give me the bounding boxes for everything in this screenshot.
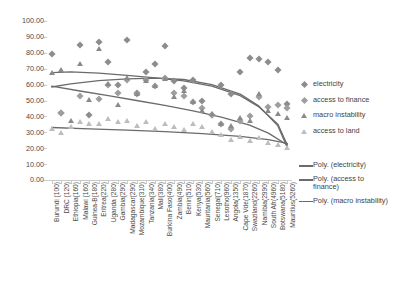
y-tick-label: 20.00 bbox=[2, 145, 44, 152]
data-point bbox=[256, 91, 262, 96]
data-point bbox=[247, 138, 253, 143]
x-tick-label: Cape Vde(1870) bbox=[243, 182, 250, 230]
legend-label: macro instability bbox=[313, 111, 365, 119]
data-point bbox=[86, 97, 92, 102]
data-point bbox=[68, 124, 74, 129]
x-tick-mark bbox=[155, 181, 156, 184]
data-point bbox=[190, 121, 196, 126]
x-tick-mark bbox=[202, 181, 203, 184]
x-tick-mark bbox=[184, 181, 185, 184]
data-point bbox=[162, 76, 168, 81]
x-tick-mark bbox=[137, 181, 138, 184]
x-tick-mark bbox=[221, 181, 222, 184]
x-tick-label: Madagascar(290) bbox=[130, 182, 137, 234]
x-tick-label: Uganda (280) bbox=[111, 182, 118, 222]
legend-label: Poly. (electricity) bbox=[313, 161, 366, 169]
data-point bbox=[152, 83, 158, 88]
data-point bbox=[105, 81, 111, 86]
y-axis-labels: 100.0090.0080.0070.0060.0050.0040.0030.0… bbox=[0, 0, 44, 200]
y-tick-label: 80.00 bbox=[2, 49, 44, 56]
plot-area bbox=[47, 21, 292, 180]
data-point bbox=[77, 61, 83, 66]
triangle-marker-icon bbox=[299, 111, 313, 120]
x-tick-mark bbox=[118, 181, 119, 184]
data-point bbox=[134, 123, 140, 128]
data-point bbox=[209, 111, 215, 116]
trendline bbox=[52, 72, 288, 145]
legend-item-electricity[interactable]: electricity bbox=[299, 80, 398, 89]
legend-label: Poly. (access to finance) bbox=[313, 175, 391, 192]
x-tick-mark bbox=[89, 181, 90, 184]
x-tick-mark bbox=[278, 181, 279, 184]
data-point bbox=[275, 111, 281, 116]
x-tick-mark bbox=[52, 181, 53, 184]
x-tick-label: Mozambique(310) bbox=[139, 182, 146, 235]
data-point bbox=[228, 123, 234, 128]
legend-trendlines: Poly. (electricity)Poly. (access to fina… bbox=[299, 161, 398, 211]
legend-label: electricity bbox=[313, 80, 343, 88]
data-point bbox=[68, 118, 74, 123]
x-tick-mark bbox=[212, 181, 213, 184]
data-point bbox=[284, 145, 290, 150]
legend-item-access-to-finance[interactable]: access to finance bbox=[299, 96, 398, 105]
x-tick-label: Burundi (100) bbox=[54, 182, 61, 222]
data-point bbox=[124, 118, 130, 123]
x-tick-mark bbox=[250, 181, 251, 184]
data-point bbox=[115, 119, 121, 124]
x-tick-mark bbox=[108, 181, 109, 184]
x-tick-mark bbox=[268, 181, 269, 184]
x-tick-label: Swaziland(2260) bbox=[252, 182, 259, 231]
x-tick-mark bbox=[287, 181, 288, 184]
x-tick-label: Mauritius(5260) bbox=[290, 182, 297, 228]
legend-item-Poly-macro-instability-[interactable]: Poly. (macro instability) bbox=[299, 197, 398, 206]
x-tick-mark bbox=[240, 181, 241, 184]
data-point bbox=[58, 67, 64, 72]
data-point bbox=[171, 94, 177, 99]
data-point bbox=[96, 46, 102, 51]
data-point bbox=[237, 115, 243, 120]
y-tick-label: 0.00 bbox=[2, 176, 44, 183]
x-tick-label: Zambia(490) bbox=[177, 182, 184, 219]
data-point bbox=[124, 75, 130, 80]
data-point bbox=[152, 126, 158, 131]
legend-label: access to finance bbox=[313, 96, 369, 104]
x-tick-mark bbox=[259, 181, 260, 184]
x-tick-mark bbox=[193, 181, 194, 184]
y-tick-label: 70.00 bbox=[2, 65, 44, 72]
data-point bbox=[181, 88, 187, 93]
x-tick-label: Namibia(2990) bbox=[262, 182, 269, 225]
x-tick-mark bbox=[71, 181, 72, 184]
data-point bbox=[256, 135, 262, 140]
x-tick-label: Senegal(710) bbox=[215, 182, 222, 222]
x-tick-label: Mauritania(560) bbox=[205, 182, 212, 228]
x-tick-label: Tanzania(340) bbox=[149, 182, 156, 224]
legend-label: access to land bbox=[313, 127, 360, 135]
data-point bbox=[237, 134, 243, 139]
legend-item-Poly-access-to-finance-[interactable]: Poly. (access to finance) bbox=[299, 175, 398, 192]
triangle-marker-icon bbox=[299, 127, 313, 136]
legend-item-Poly-electricity-[interactable]: Poly. (electricity) bbox=[299, 161, 398, 170]
x-tick-label: Malawi (160) bbox=[83, 182, 90, 220]
x-tick-mark bbox=[174, 181, 175, 184]
legend-markers: electricityaccess to financemacro instab… bbox=[299, 80, 398, 142]
line-marker-icon bbox=[299, 197, 313, 206]
data-point bbox=[209, 129, 215, 134]
data-point bbox=[190, 99, 196, 104]
data-point bbox=[49, 70, 55, 75]
data-point bbox=[218, 121, 224, 126]
data-point bbox=[105, 116, 111, 121]
legend-item-access-to-land[interactable]: access to land bbox=[299, 127, 398, 136]
legend-item-macro-instability[interactable]: macro instability bbox=[299, 111, 398, 120]
x-tick-label: Ethiopia(160) bbox=[73, 182, 80, 221]
y-tick-label: 30.00 bbox=[2, 129, 44, 136]
x-tick-label: Kenya(530) bbox=[196, 182, 203, 216]
trendline-layer bbox=[47, 21, 292, 180]
data-point bbox=[162, 121, 168, 126]
diamond-marker-icon bbox=[299, 96, 313, 105]
x-tick-mark bbox=[127, 181, 128, 184]
x-tick-mark bbox=[99, 181, 100, 184]
x-tick-label: Eritrea(220) bbox=[101, 182, 108, 217]
line-marker-icon bbox=[299, 161, 313, 170]
x-tick-label: Burkina Faso(400) bbox=[167, 182, 174, 236]
data-point bbox=[86, 121, 92, 126]
